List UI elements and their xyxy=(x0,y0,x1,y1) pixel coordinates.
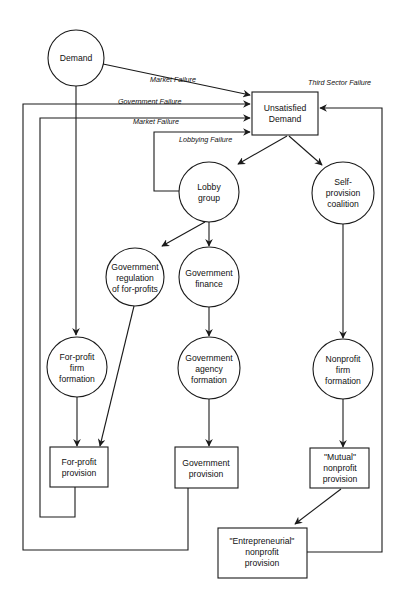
label-government-failure: Government Failure xyxy=(118,97,182,106)
node-finance-label-1: Government xyxy=(185,268,233,278)
node-nonprofit-formation: Nonprofit firm formation xyxy=(313,339,373,399)
node-regulation-label-3: of for-profits xyxy=(112,284,158,294)
node-government-regulation: Government regulation of for-profits xyxy=(106,248,164,306)
edge-lobby-to-regulation xyxy=(162,222,205,246)
label-third-sector-failure: Third Sector Failure xyxy=(308,78,371,87)
demand-flow-diagram: Market Failure Government Failure Market… xyxy=(0,0,400,607)
node-finance-label-2: finance xyxy=(195,279,223,289)
label-lobbying-failure: Lobbying Failure xyxy=(179,135,232,144)
node-gov-agency-formation: Government agency formation xyxy=(178,337,240,399)
node-selfprov-label-2: provision xyxy=(326,188,361,198)
node-fpprovision-label-1: For-profit xyxy=(62,457,97,467)
label-market-failure-demand: Market Failure xyxy=(150,75,196,84)
node-mutual-label-2: nonprofit xyxy=(323,463,357,473)
node-unsatisfied-label-1: Unsatisfied xyxy=(264,103,307,113)
node-npformation-label-3: formation xyxy=(325,376,361,386)
node-selfprov-label-3: coalition xyxy=(327,199,359,209)
node-fpprovision-label-2: provision xyxy=(62,468,97,478)
node-lobby-group: Lobby group xyxy=(179,162,239,222)
edge-labels: Market Failure Government Failure Market… xyxy=(118,75,371,144)
node-regulation-label-2: regulation xyxy=(116,273,154,283)
node-unsatisfied-label-2: Demand xyxy=(269,114,302,124)
node-government-provision: Government provision xyxy=(175,447,238,488)
node-entre-label-1: "Entrepreneurial" xyxy=(230,536,295,546)
node-fpformation-label-1: For-profit xyxy=(60,352,95,362)
node-govprovision-label-2: provision xyxy=(189,469,224,479)
node-self-provision-coalition: Self- provision coalition xyxy=(312,162,374,224)
node-entrepreneurial-provision: "Entrepreneurial" nonprofit provision xyxy=(218,528,307,578)
node-demand-label: Demand xyxy=(60,53,93,63)
node-lobby-label-2: group xyxy=(198,193,220,203)
node-entre-label-2: nonprofit xyxy=(245,547,279,557)
node-fpformation-label-3: formation xyxy=(59,374,95,384)
node-entre-label-3: provision xyxy=(245,558,280,568)
node-government-finance: Government finance xyxy=(179,247,239,307)
node-forprofit-formation: For-profit firm formation xyxy=(47,337,107,397)
node-mutual-label-3: provision xyxy=(323,474,358,484)
edge-unsatisfied-to-lobby xyxy=(238,136,287,164)
label-market-failure-forprofit: Market Failure xyxy=(133,117,179,126)
node-unsatisfied-demand: Unsatisfied Demand xyxy=(252,92,318,135)
node-govprovision-label-1: Government xyxy=(182,458,230,468)
node-regulation-label-1: Government xyxy=(111,262,159,272)
edge-unsatisfied-to-selfprovision xyxy=(289,136,322,165)
node-fpformation-label-2: firm xyxy=(70,363,84,373)
node-forprofit-provision: For-profit provision xyxy=(50,447,108,487)
edge-mutual-to-entrepreneurial xyxy=(295,489,341,524)
node-npformation-label-1: Nonprofit xyxy=(326,354,361,364)
node-selfprov-label-1: Self- xyxy=(334,177,352,187)
node-mutual-label-1: "Mutual" xyxy=(324,452,356,462)
node-npformation-label-2: firm xyxy=(336,365,350,375)
node-agency-label-3: formation xyxy=(191,375,227,385)
node-agency-label-1: Government xyxy=(185,353,233,363)
node-mutual-provision: "Mutual" nonprofit provision xyxy=(310,448,369,488)
node-demand: Demand xyxy=(48,30,104,86)
node-lobby-label-1: Lobby xyxy=(197,182,221,192)
node-agency-label-2: agency xyxy=(195,364,223,374)
